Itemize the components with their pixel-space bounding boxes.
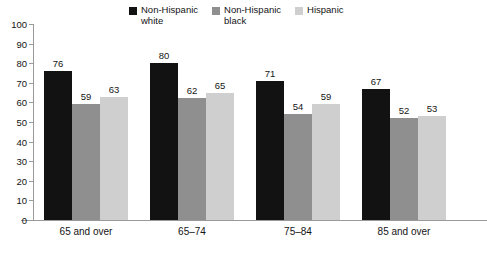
plot-area: 0102030405060708090100 76596380626571545… (33, 24, 457, 220)
bar[interactable]: 80 (150, 63, 178, 220)
y-axis-tick-label: 40 (16, 136, 27, 147)
bar-value-label: 63 (109, 84, 120, 95)
legend-item[interactable]: Non-Hispanic white (129, 4, 198, 26)
legend-item-label: Hispanic (307, 4, 343, 15)
y-axis-tick-label: 20 (16, 175, 27, 186)
y-axis-tick-label: 100 (11, 19, 27, 30)
bar[interactable]: 63 (100, 97, 128, 220)
bar-value-label: 59 (321, 91, 332, 102)
bar-value-label: 67 (371, 76, 382, 87)
legend-swatch-icon (129, 7, 137, 15)
bar-group: 765963 (33, 24, 139, 220)
bar-value-label: 65 (215, 80, 226, 91)
y-axis-tick-label: 90 (16, 38, 27, 49)
bar-value-label: 59 (81, 91, 92, 102)
bar-group: 675253 (351, 24, 457, 220)
bar[interactable]: 54 (284, 114, 312, 220)
x-axis-category-label: 75–84 (245, 226, 351, 237)
bar[interactable]: 76 (44, 71, 72, 220)
bar-value-label: 80 (159, 50, 170, 61)
x-axis-category-label: 65–74 (139, 226, 245, 237)
legend-item[interactable]: Hispanic (295, 4, 343, 15)
y-axis-tick-label: 60 (16, 97, 27, 108)
bar[interactable]: 65 (206, 93, 234, 220)
bar[interactable]: 59 (312, 104, 340, 220)
y-axis-tick-label: 30 (16, 156, 27, 167)
bar[interactable]: 62 (178, 98, 206, 220)
bar-value-label: 62 (187, 85, 198, 96)
legend-swatch-icon (295, 7, 303, 15)
bar-value-label: 76 (53, 58, 64, 69)
legend-item-label: Non-Hispanic white (141, 4, 198, 26)
x-axis-category-label: 85 and over (351, 226, 457, 237)
chart-legend: Non-Hispanic whiteNon-Hispanic blackHisp… (129, 4, 344, 26)
y-axis-tick-label: 10 (16, 195, 27, 206)
y-axis-tick-label: 0 (22, 215, 27, 226)
bar-value-label: 54 (293, 101, 304, 112)
bar-value-label: 53 (427, 103, 438, 114)
y-axis-tick-label: 50 (16, 117, 27, 128)
bar[interactable]: 67 (362, 89, 390, 220)
y-axis-tick-label: 80 (16, 58, 27, 69)
x-axis-category-label: 65 and over (33, 226, 139, 237)
bar[interactable]: 59 (72, 104, 100, 220)
bar[interactable]: 71 (256, 81, 284, 220)
bar-value-label: 71 (265, 68, 276, 79)
bar[interactable]: 53 (418, 116, 446, 220)
bar-groups: 765963806265715459675253 (33, 24, 457, 220)
legend-item[interactable]: Non-Hispanic black (212, 4, 281, 26)
y-axis-tick-label: 70 (16, 77, 27, 88)
x-axis-line (21, 220, 487, 221)
legend-item-label: Non-Hispanic black (224, 4, 281, 26)
bar[interactable]: 52 (390, 118, 418, 220)
bar-group: 806265 (139, 24, 245, 220)
x-axis-category-labels: 65 and over65–7475–8485 and over (33, 226, 457, 237)
bar-group: 715459 (245, 24, 351, 220)
y-axis-tick-mark (29, 220, 33, 221)
bar-value-label: 52 (399, 105, 410, 116)
legend-swatch-icon (212, 7, 220, 15)
